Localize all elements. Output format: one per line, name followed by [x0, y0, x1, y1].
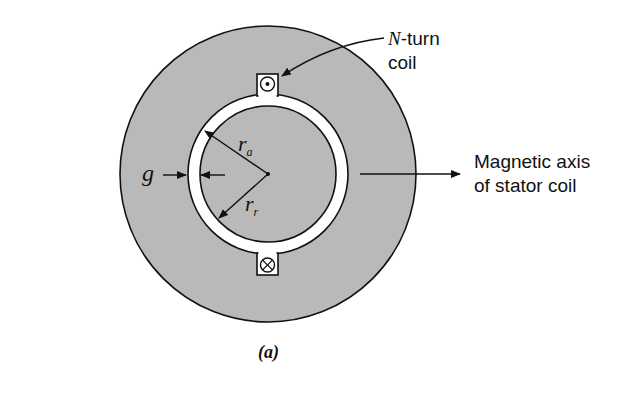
ra-symbol: r — [238, 131, 247, 156]
magnetic-axis-label-line1: Magnetic axis — [474, 151, 590, 173]
rr-subscript: r — [254, 205, 259, 219]
figure-caption: (a) — [258, 342, 279, 363]
rr-symbol: r — [245, 191, 254, 216]
rr-label: rr — [245, 191, 258, 217]
machine-cross-section-figure: N-turn coil Magnetic axis of stator coil… — [0, 0, 626, 394]
gap-symbol: g — [142, 160, 154, 187]
magnetic-axis-label-line2: of stator coil — [474, 175, 576, 197]
coil-side-bottom-cross-icon — [257, 251, 278, 275]
coil-side-top-dot-icon — [257, 74, 278, 98]
coil-label-line2: coil — [388, 52, 417, 74]
coil-label: N-turn — [388, 28, 440, 50]
diagram-canvas — [0, 0, 626, 394]
coil-label-suffix: -turn — [401, 28, 440, 49]
ra-label: ra — [238, 131, 253, 157]
ra-subscript: a — [247, 145, 253, 159]
coil-label-n: N — [388, 28, 401, 49]
